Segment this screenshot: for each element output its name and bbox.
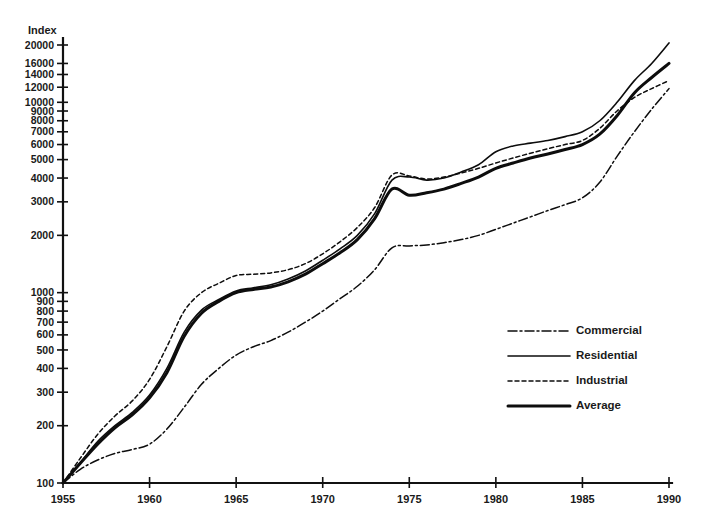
legend-label-residential: Residential [576,349,637,361]
y-tick-label: 300 [36,386,54,398]
legend-label-industrial: Industrial [576,374,628,386]
legend-label-average: Average [576,399,621,411]
x-tick-label: 1980 [484,493,508,505]
y-tick-label: 14000 [25,68,54,80]
y-tick-label: 6000 [31,138,55,150]
y-tick-label: 200 [36,419,54,431]
y-tick-label: 3000 [31,195,55,207]
x-tick-label: 1985 [570,493,594,505]
x-tick-label: 1975 [397,493,421,505]
y-tick-label: 2000 [31,229,55,241]
series-line-residential [63,43,669,483]
series-line-commercial [63,89,669,483]
x-tick-label: 1970 [310,493,334,505]
y-tick-label: 12000 [25,81,54,93]
y-tick-label: 20000 [25,39,54,51]
line-chart: 2000016000140001200010000900080007000600… [0,0,713,530]
series-line-average [63,63,669,483]
y-tick-label: 500 [36,344,54,356]
y-tick-label: 400 [36,362,54,374]
x-tick-label: 1990 [657,493,681,505]
x-axis-ticks: 19551960196519701975198019851990 [51,477,681,505]
y-tick-label: 700 [36,316,54,328]
y-tick-label: 100 [36,477,54,489]
chart-legend: CommercialResidentialIndustrialAverage [508,324,642,411]
legend-label-commercial: Commercial [576,324,642,336]
series-line-industrial [63,81,669,483]
y-axis-ticks: 2000016000140001200010000900080007000600… [25,39,68,489]
x-tick-label: 1965 [224,493,248,505]
y-tick-label: 7000 [31,125,55,137]
y-tick-label: 600 [36,328,54,340]
series-lines [63,43,669,483]
y-tick-label: 4000 [31,172,55,184]
y-tick-label: 5000 [31,153,55,165]
x-tick-label: 1955 [51,493,75,505]
x-tick-label: 1960 [137,493,161,505]
chart-canvas: 2000016000140001200010000900080007000600… [0,0,713,530]
y-axis-title: Index [28,24,58,36]
